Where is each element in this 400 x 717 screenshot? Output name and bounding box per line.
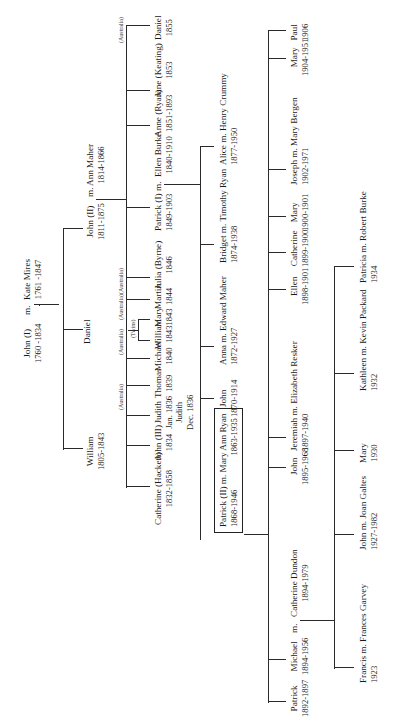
person-joseph: Joseph m. Mary Bergen 1902-1971	[289, 97, 310, 185]
gen2-link-william	[138, 340, 150, 341]
person-mary: Mary 1843	[153, 307, 174, 327]
location-tag: (Australia)	[118, 384, 124, 410]
twins-label: (Twins)	[130, 319, 136, 338]
person-ellen: Ellen 1898-1901	[289, 268, 310, 305]
person-anna: Anna m. Edward Maher 1872-1927	[218, 276, 239, 365]
gen4-descent	[245, 534, 268, 535]
gen5-link-john	[334, 534, 354, 535]
person-ellen-burke: Ellen Burke 1840-1910	[153, 133, 174, 177]
person-catherine-dundon: Catherine Dundon 1894-1979	[289, 549, 310, 617]
person-mary: Mary 1900-1901	[289, 194, 310, 231]
person-julia-byrne: Julia (Byrne) 1846	[153, 241, 174, 289]
gen3-link-alice	[200, 146, 214, 147]
person-ann-maher: Ann Maher 1814-1866	[85, 144, 106, 186]
gen5-sibling-bar	[334, 266, 335, 669]
person-john: John 1870-1914	[218, 380, 239, 417]
person-daniel: Daniel	[82, 320, 93, 345]
marriage-marker: m.	[85, 188, 96, 197]
gen2-link-judith	[126, 415, 150, 416]
gen2-link-catherine	[126, 486, 150, 487]
person-john-ii: John (II) 1811-1875	[85, 203, 106, 240]
person-mary-2: Mary 1904-1951	[289, 39, 310, 76]
gen4-sibling-bar	[268, 30, 269, 703]
person-john: John m. Joan Galtes 1927-1982	[358, 476, 379, 550]
gen2-link-jane	[126, 90, 150, 91]
person-bridget: Bridget m. Timothy Ryan 1874-1938	[218, 169, 239, 263]
gen1-link-william	[63, 448, 83, 449]
person-william: William 1805-1843	[85, 433, 106, 470]
gen2-link-thomas	[126, 385, 150, 386]
gen1-descent	[39, 304, 59, 305]
gen5-link-francis	[334, 667, 354, 668]
gen2-link-michael	[126, 358, 150, 359]
person-daniel: Daniel 1855	[153, 16, 174, 41]
person-thomas: Thomas 1839	[153, 368, 174, 398]
person-alice: Alice m. Henry Crummy 1877-1950	[218, 73, 239, 165]
gen2-link-patrick-i	[126, 207, 150, 208]
gen3-descent	[164, 184, 200, 185]
gen4-link-mary	[268, 216, 286, 217]
person-michael: Michael 1894-1956	[289, 638, 310, 675]
gen2-link-anne	[126, 125, 150, 126]
gen4-link-john	[268, 467, 286, 468]
gen2-link-mary	[138, 319, 150, 320]
person-patrick-i: Patrick (I) 1849-1903	[153, 194, 174, 232]
person-patrick-ii-box: Patrick (II) m. Mary Ann Ryan 1868-1946 …	[214, 408, 243, 533]
gen3-sibling-bar	[200, 146, 201, 539]
gen5-link-patricia	[334, 266, 354, 267]
gen4-link-jeremiah	[268, 437, 286, 438]
gen1-link-daniel	[63, 329, 83, 330]
person-john: John 1895-1968	[289, 448, 310, 485]
location-tag: (Australia)	[118, 17, 124, 43]
gen4-link-catherine	[268, 252, 286, 253]
gen2-link-julia	[126, 277, 150, 278]
gen3-link-bridget	[200, 244, 214, 245]
person-paul: Paul 1906	[289, 24, 310, 41]
gen4-link-paul	[268, 30, 286, 31]
person-patricia: Patricia m. Robert Burke 1934	[358, 191, 379, 283]
gen1-link-john-ii	[63, 228, 83, 229]
location-tag: (Australia)	[118, 268, 124, 294]
gen2-link-martin	[126, 299, 150, 300]
location-tag: (Australia)	[118, 294, 124, 320]
gen2-link-john-iii	[126, 445, 150, 446]
marriage-marker: m.	[289, 624, 300, 633]
gen5-link-kathleen	[334, 373, 354, 374]
gen1-drop	[39, 305, 40, 306]
gen4-link-patrick	[268, 701, 286, 702]
marriage-marker: m.	[153, 182, 164, 191]
gen4-link-joseph	[268, 169, 286, 170]
person-kate-mires: Kate Mires 1761 -1847	[22, 259, 43, 300]
person-francis: Francis m. Frances Garvey 1923	[358, 584, 379, 683]
gen3-link-anna	[200, 346, 214, 347]
gen2-descent	[96, 199, 126, 200]
person-catherine: Catherine 1899-1900	[289, 230, 310, 267]
gen4-link-michael	[268, 659, 286, 660]
person-kathleen: Kathleen m. Kevin Packard 1932	[358, 289, 379, 391]
gen5-link-mary	[334, 450, 354, 451]
person-john-iii: John (III) 1834	[153, 425, 174, 460]
marriage-marker: m.	[22, 306, 33, 315]
person-catherine-hackett: Catherine (Hackett) 1832-1858	[153, 452, 174, 525]
person-patrick: Patrick 1892-1897	[289, 680, 310, 717]
person-jeremiah: Jeremiah m. Elizabeth Resker 1897-1940	[289, 341, 310, 451]
gen3-link-patrick-ii-h	[200, 530, 201, 540]
gen1-sibling-bar	[63, 228, 64, 450]
person-jane-keating: Jane (Keating) 1853	[153, 43, 174, 97]
twins-bar	[138, 320, 139, 341]
gen3-link-john	[200, 398, 214, 399]
location-tag: (Australia)	[118, 329, 124, 355]
gen4-link-mary-2	[268, 58, 286, 59]
gen5-descent	[300, 620, 334, 621]
person-judith: Judith Jan. 1836 Judith Dec. 1836	[153, 395, 195, 430]
gen2-sibling-bar	[126, 25, 127, 488]
gen4-link-ellen	[268, 289, 286, 290]
gen2-link-daniel	[126, 25, 150, 26]
person-john-i: John (I) 1760 -1834	[22, 324, 43, 363]
person-mary: Mary 1930	[358, 443, 379, 463]
